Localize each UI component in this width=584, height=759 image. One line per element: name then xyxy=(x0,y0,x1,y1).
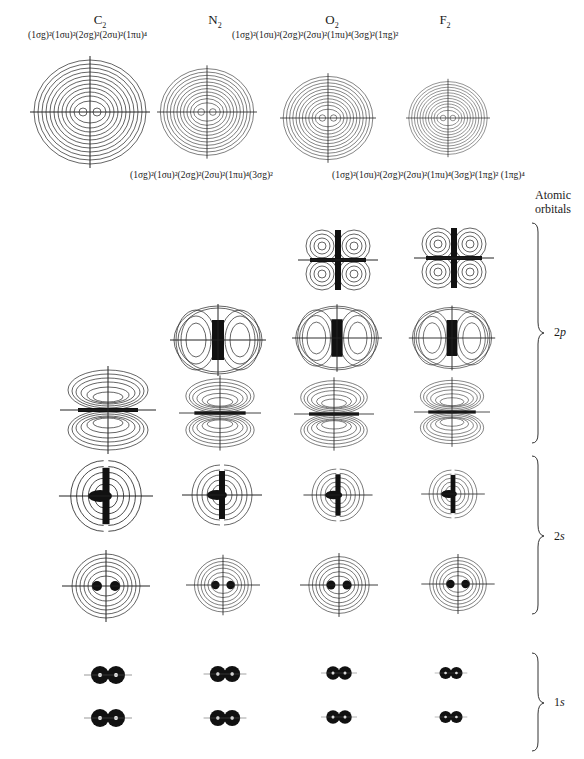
molecule-symbol: O xyxy=(325,12,334,27)
molecule-title-n2: N2 xyxy=(185,12,245,30)
plot-n2-2sigu xyxy=(178,460,266,530)
plot-n2-1sigg xyxy=(200,705,250,731)
label-2p: 2p xyxy=(554,325,566,340)
label-l: s xyxy=(560,695,565,709)
config-o2: (1σg)²(1σu)²(2σg)²(2σu)²(1πu)⁴(3σg)²(1πg… xyxy=(232,30,398,40)
plot-c2-2sigu xyxy=(54,456,158,536)
plot-c2-total-density xyxy=(30,52,150,172)
molecule-title-c2: C2 xyxy=(70,12,130,30)
atomic-orbitals-header: Atomic orbitals xyxy=(528,188,578,216)
label-2s: 2s xyxy=(554,529,565,544)
plot-n2-1sigu xyxy=(200,661,250,687)
plot-f2-1piu xyxy=(414,374,490,450)
label-1s: 1s xyxy=(554,695,565,710)
plot-o2-1pig xyxy=(298,220,378,300)
label-l: s xyxy=(560,529,565,543)
molecule-subscript: 2 xyxy=(218,21,222,30)
brace-1s xyxy=(530,652,550,752)
molecule-subscript: 2 xyxy=(102,21,106,30)
plot-c2-1sigg xyxy=(80,704,136,732)
label-l: p xyxy=(560,325,566,339)
brace-2p xyxy=(530,222,550,444)
plot-o2-3sigg xyxy=(292,300,382,376)
plot-c2-2sigg xyxy=(62,550,150,622)
plot-f2-3sigg xyxy=(408,302,496,374)
molecule-subscript: 2 xyxy=(335,21,339,30)
plot-o2-total-density xyxy=(280,70,376,166)
config-c2: (1σg)²(1σu)²(2σg)²(2σu)²(1πu)⁴ xyxy=(28,30,147,40)
molecule-subscript: 2 xyxy=(447,21,451,30)
plot-n2-3sigg xyxy=(170,300,266,380)
plot-c2-1piu xyxy=(60,362,156,458)
plot-o2-1sigg xyxy=(318,706,360,728)
molecule-symbol: N xyxy=(208,12,217,27)
header-line-2: orbitals xyxy=(528,202,578,216)
header-line-1: Atomic xyxy=(528,188,578,202)
plot-f2-total-density xyxy=(406,76,490,160)
plot-o2-2sigg xyxy=(300,552,378,618)
plot-o2-1piu xyxy=(294,374,374,454)
plot-n2-1piu xyxy=(178,372,262,454)
molecule-title-o2: O2 xyxy=(302,12,362,30)
config-f2: (1σg)²(1σu)²(2σg)²(2σu)²(1πu)⁴(3σg)²(1πg… xyxy=(332,170,525,180)
plot-f2-1sigg xyxy=(432,707,470,727)
plot-n2-2sigg xyxy=(186,552,260,618)
brace-2s xyxy=(530,455,550,615)
plot-c2-1sigu xyxy=(80,661,136,689)
plot-f2-2sigu xyxy=(418,466,488,522)
plot-f2-2sigg xyxy=(418,554,498,614)
plot-f2-1sigu xyxy=(432,663,470,683)
config-n2: (1σg)²(1σu)²(2σg)²(2σu)²(1πu)⁴(3σg)² xyxy=(130,170,273,180)
plot-f2-1pig xyxy=(414,218,494,298)
molecule-symbol: F xyxy=(439,12,446,27)
plot-o2-1sigu xyxy=(318,662,360,684)
plot-n2-total-density xyxy=(157,62,257,162)
molecule-title-f2: F2 xyxy=(415,12,475,30)
plot-o2-2sigu xyxy=(300,464,376,526)
